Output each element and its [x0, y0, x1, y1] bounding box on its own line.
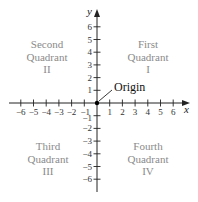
y-tick-label: −4 — [82, 149, 92, 159]
y-tick-label: 2 — [88, 73, 93, 83]
y-axis-label: y — [86, 5, 92, 17]
second-quadrant-label: Second Quadrant II — [12, 38, 82, 76]
y-tick-label: −1 — [82, 113, 92, 123]
x-tick-label: 2 — [120, 107, 125, 117]
y-axis-arrow-icon — [94, 9, 100, 17]
quadrant-word: Quadrant — [113, 153, 183, 166]
y-tick-label: 4 — [88, 47, 93, 57]
quadrant-word: Quadrant — [13, 153, 83, 166]
x-tick-label: −2 — [67, 107, 77, 117]
y-tick-label: 1 — [88, 85, 93, 95]
y-tick-label: −6 — [82, 174, 92, 184]
y-tick-label: 6 — [88, 22, 93, 32]
x-tick-label: 5 — [158, 107, 163, 117]
third-quadrant-label: Third Quadrant III — [13, 140, 83, 178]
quadrant-name: Third — [13, 140, 83, 153]
quadrant-name: Second — [12, 38, 82, 51]
origin-point — [95, 101, 99, 105]
quadrant-numeral: I — [113, 63, 183, 76]
x-tick-label: 3 — [133, 107, 138, 117]
x-tick-label: 1 — [107, 107, 112, 117]
y-tick-label: 5 — [88, 35, 93, 45]
x-tick-label: −6 — [16, 107, 26, 117]
x-tick-label: 4 — [146, 107, 151, 117]
origin-label: Origin — [114, 80, 145, 95]
quadrant-word: Quadrant — [12, 51, 82, 64]
x-axis-label: x — [183, 103, 189, 115]
y-tick-label: −3 — [82, 136, 92, 146]
quadrant-numeral: III — [13, 165, 83, 178]
origin-pointer — [99, 90, 112, 101]
quadrant-numeral: IV — [113, 165, 183, 178]
quadrant-name: Fourth — [113, 140, 183, 153]
x-tick-label: −3 — [54, 107, 64, 117]
x-tick-label: −4 — [41, 107, 51, 117]
fourth-quadrant-label: Fourth Quadrant IV — [113, 140, 183, 178]
y-tick-label: 3 — [88, 60, 93, 70]
x-tick-label: 6 — [171, 107, 176, 117]
quadrant-word: Quadrant — [113, 51, 183, 64]
y-tick-label: −5 — [82, 162, 92, 172]
quadrant-numeral: II — [12, 63, 82, 76]
first-quadrant-label: First Quadrant I — [113, 38, 183, 76]
x-tick-label: −5 — [29, 107, 39, 117]
y-tick-label: −2 — [82, 123, 92, 133]
quadrant-name: First — [113, 38, 183, 51]
